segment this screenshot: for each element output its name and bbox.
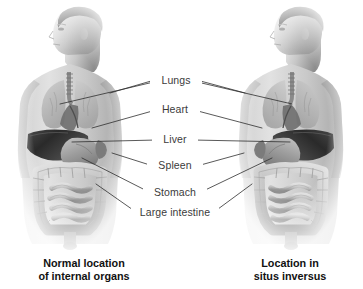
label-large-intestine: Large intestine (140, 206, 210, 218)
organ-label-group: Lungs Heart Liver Spleen Stomach Large i… (131, 73, 219, 220)
label-liver: Liver (163, 133, 187, 145)
diagram-svg: Lungs Heart Liver Spleen Stomach Large i… (0, 0, 363, 289)
normal-anatomy-figure (8, 0, 132, 250)
caption-right-line2: situs inversus (254, 270, 327, 282)
anatomy-diagram: Lungs Heart Liver Spleen Stomach Large i… (0, 0, 363, 289)
label-heart: Heart (162, 103, 188, 115)
situs-inversus-figure (229, 0, 353, 250)
caption-right-line1: Location in (261, 257, 319, 269)
leader-spleen-right (197, 153, 244, 166)
label-lungs: Lungs (161, 74, 190, 86)
label-spleen: Spleen (158, 159, 191, 171)
caption-left-line1: Normal location (43, 257, 125, 269)
label-stomach: Stomach (154, 186, 196, 198)
caption-left-line2: of internal organs (38, 270, 129, 282)
caption-left: Normal location of internal organs (38, 257, 129, 282)
caption-right: Location in situs inversus (254, 257, 327, 282)
